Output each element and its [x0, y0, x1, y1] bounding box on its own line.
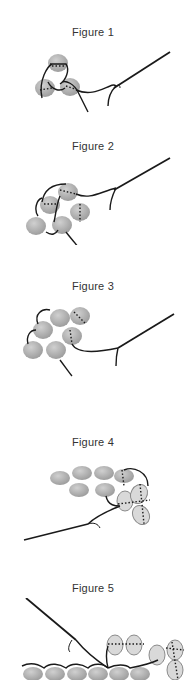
light-bead-cluster	[117, 481, 153, 527]
bead-cluster	[23, 307, 90, 359]
needle-icon	[118, 314, 174, 348]
figure-2-diagram	[0, 155, 186, 245]
figure-5-caption: Figure 5	[0, 582, 186, 594]
needle-icon	[114, 52, 170, 88]
needle-icon	[24, 523, 100, 540]
figure-1-diagram	[0, 40, 186, 120]
needle-icon	[114, 158, 170, 190]
figure-1-caption: Figure 1	[0, 26, 186, 38]
figure-5-diagram	[0, 598, 186, 680]
figure-3-diagram	[0, 300, 186, 380]
figure-4-diagram	[0, 460, 186, 545]
bead-base-row	[23, 667, 150, 680]
figure-4-caption: Figure 4	[0, 436, 186, 448]
figure-3-caption: Figure 3	[0, 280, 186, 292]
figure-2-caption: Figure 2	[0, 140, 186, 152]
needle-icon	[26, 598, 76, 652]
